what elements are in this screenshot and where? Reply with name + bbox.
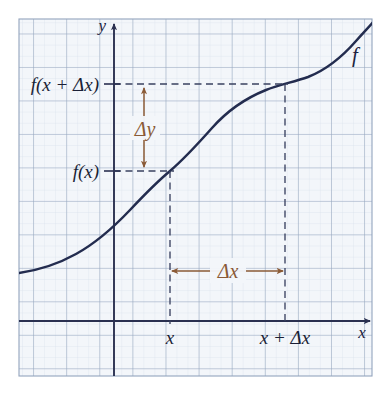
f-of-x-plus-delta-x-label: f(x + Δx) <box>31 74 99 96</box>
delta-x-label: Δx <box>217 260 239 282</box>
y-axis-label: y <box>96 16 106 35</box>
x-tick-label: x <box>165 327 175 348</box>
figure-root: Δy Δx f(x + Δx) f(x) x x + Δx y x f <box>0 0 392 396</box>
delta-y-label: Δy <box>134 118 156 141</box>
x-axis-label: x <box>357 323 366 342</box>
x-plus-delta-x-tick-label: x + Δx <box>259 327 311 348</box>
calculus-increment-diagram: Δy Δx f(x + Δx) f(x) x x + Δx y x f <box>0 0 392 396</box>
f-of-x-label: f(x) <box>73 161 99 183</box>
